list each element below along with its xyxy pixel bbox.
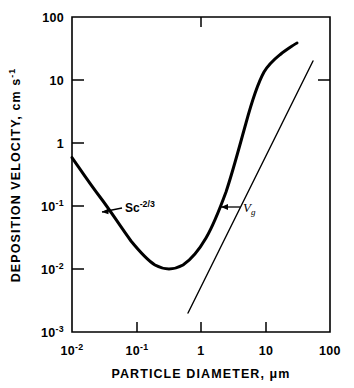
- gravitational-settling-line: [188, 61, 313, 313]
- y-tick-label-1: 1: [57, 137, 64, 151]
- plot-frame: [72, 17, 330, 332]
- x-tick-label-10: 10: [259, 344, 274, 358]
- x-axis-ticks: [137, 322, 266, 332]
- x-tick-label-100: 100: [319, 344, 341, 358]
- x-tick-label-0.1: 10-1: [126, 342, 149, 358]
- y-tick-label-100: 100: [42, 11, 64, 25]
- y-tick-label-0.1: 10-1: [41, 198, 64, 214]
- deposition-velocity-chart: 100 10 1 10-1 10-2 10-3 10-2 10-1 1 10: [0, 0, 354, 388]
- x-axis-title: PARTICLE DIAMETER, μm: [111, 367, 290, 381]
- settling-velocity-label: Vg: [243, 200, 256, 217]
- y-axis-title: DEPOSITION VELOCITY, cm s-1: [7, 68, 23, 283]
- x-tick-label-0.01: 10-2: [61, 342, 84, 358]
- y-tick-label-0.001: 10-3: [41, 324, 64, 340]
- settling-velocity-arrow-icon: [221, 204, 240, 210]
- y-tick-label-10: 10: [49, 74, 64, 88]
- y-tick-label-0.01: 10-2: [41, 261, 64, 277]
- x-tick-label-1: 1: [197, 344, 204, 358]
- deposition-velocity-curve: [72, 43, 297, 269]
- chart-figure: 100 10 1 10-1 10-2 10-3 10-2 10-1 1 10: [0, 0, 354, 388]
- schmidt-number-label: Sc-2/3: [125, 199, 155, 215]
